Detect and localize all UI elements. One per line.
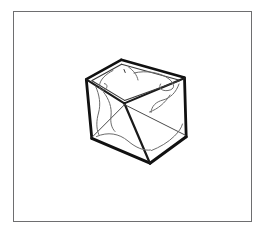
reflection-left-wall-wave bbox=[96, 86, 100, 135]
cube-inner-base bbox=[92, 105, 185, 137]
reflection-right-wall-wave bbox=[151, 84, 179, 113]
reflection-back-wall-hint bbox=[129, 67, 139, 80]
reflection-base-right-wave bbox=[152, 124, 183, 151]
reflection-inner-right-fold bbox=[150, 95, 171, 112]
inner-rim-front-right bbox=[125, 81, 180, 101]
edge-vertical-left bbox=[86, 79, 92, 138]
reflection-top-left-hook bbox=[99, 71, 113, 91]
edge-base-right bbox=[150, 137, 186, 163]
cube-front-rim bbox=[87, 78, 185, 103]
corner-tick-marks bbox=[124, 70, 125, 73]
illustration-root: Open-top transparent glass cube hand-dra… bbox=[0, 0, 266, 238]
edge-vertical-right bbox=[185, 78, 187, 137]
reflection-top-right-sweep bbox=[134, 72, 174, 91]
edge-rim-front-left bbox=[87, 80, 125, 104]
reflection-inner-left-fold bbox=[104, 92, 116, 132]
glass-cube-drawing bbox=[0, 0, 266, 238]
tick-top-vertex bbox=[124, 70, 125, 73]
